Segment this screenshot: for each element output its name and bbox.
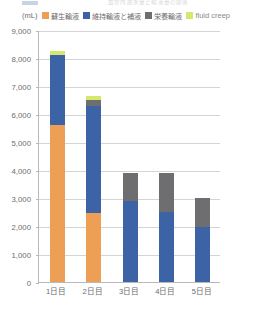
bar-column[interactable]: [50, 51, 65, 282]
legend-item-maintenance-fluid: 維持輸液と補液: [83, 11, 141, 21]
legend-swatch-nutritional-fluid: [145, 12, 152, 19]
y-axis-unit-label: (mL): [22, 11, 37, 20]
legend-swatch-resuscitation-fluid: [42, 12, 49, 19]
bar-group: [39, 31, 220, 282]
legend-label-fluid-creep: fluid creep: [195, 11, 230, 20]
bar-column[interactable]: [195, 198, 210, 282]
legend-item-resuscitation-fluid: 蘇生輸液: [42, 11, 79, 21]
bar-segment[interactable]: [86, 213, 101, 282]
legend-swatch-maintenance-fluid: [83, 12, 90, 19]
bar-segment[interactable]: [86, 106, 101, 214]
cropped-header-artifact: 血管内脱水量と輸液量の関係: [0, 0, 258, 7]
y-axis-tick-label: 3,000: [11, 195, 31, 204]
bar-segment[interactable]: [50, 55, 65, 125]
x-axis-tick-label: 5日目: [192, 285, 212, 296]
y-axis-tick-label: 7,000: [11, 83, 31, 92]
y-axis-tick-label: 5,000: [11, 139, 31, 148]
y-axis-tick: [36, 283, 39, 284]
y-axis-tick-label: 4,000: [11, 167, 31, 176]
y-axis-tick-label: 8,000: [11, 55, 31, 64]
bar-segment[interactable]: [123, 201, 138, 282]
bar-segment[interactable]: [195, 198, 210, 227]
y-axis-tick-label: 0: [27, 279, 31, 288]
y-axis-labels: 9,0008,0007,0006,0005,0004,0003,0002,000…: [0, 31, 36, 283]
y-axis-tick-label: 6,000: [11, 111, 31, 120]
plot-area: [38, 31, 220, 283]
y-axis-tick-label: 2,000: [11, 223, 31, 232]
bar-segment[interactable]: [159, 173, 174, 212]
legend-label-resuscitation-fluid: 蘇生輸液: [51, 11, 79, 21]
legend-swatch-fluid-creep: [186, 12, 193, 19]
x-axis-tick-label: 2日目: [82, 285, 102, 296]
x-axis-tick-label: 4日目: [155, 285, 175, 296]
bar-segment[interactable]: [195, 227, 210, 282]
legend-item-nutritional-fluid: 栄養輸液: [145, 11, 182, 21]
legend-item-fluid-creep: fluid creep: [186, 11, 230, 20]
bar-segment[interactable]: [50, 125, 65, 282]
artifact-swatch: [22, 1, 38, 5]
bar-column[interactable]: [86, 96, 101, 282]
bar-column[interactable]: [123, 173, 138, 282]
legend-label-nutritional-fluid: 栄養輸液: [154, 11, 182, 21]
artifact-text: 血管内脱水量と輸液量の関係: [108, 0, 189, 6]
x-axis-tick-label: 3日目: [119, 285, 139, 296]
bar-column[interactable]: [159, 173, 174, 282]
bar-segment[interactable]: [123, 173, 138, 201]
legend-label-maintenance-fluid: 維持輸液と補液: [92, 11, 141, 21]
y-axis-tick-label: 9,000: [11, 27, 31, 36]
x-axis-labels: 1日目2日目3日目4日目5日目: [38, 285, 220, 301]
bar-segment[interactable]: [159, 212, 174, 282]
x-axis-tick-label: 1日目: [46, 285, 66, 296]
chart-legend: (mL) 蘇生輸液 維持輸液と補液 栄養輸液 fluid creep: [0, 9, 258, 22]
y-axis-tick-label: 1,000: [11, 251, 31, 260]
